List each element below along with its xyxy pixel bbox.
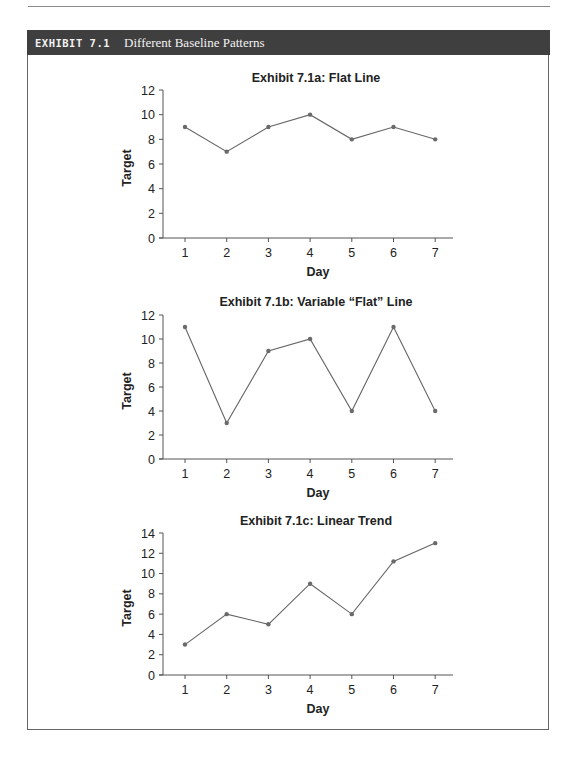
x-tick-label: 4	[307, 246, 314, 260]
chart-c-x-label: Day	[307, 702, 330, 716]
data-point-marker	[183, 125, 187, 129]
chart-a-x-label: Day	[307, 265, 330, 279]
y-tick-label: 2	[148, 207, 155, 221]
y-tick-label: 0	[148, 669, 155, 683]
y-tick-label: 6	[148, 608, 155, 622]
y-tick-label: 12	[141, 309, 155, 323]
data-point-marker	[266, 622, 270, 626]
chart-a-y-label: Target	[120, 149, 134, 187]
data-point-marker	[308, 582, 312, 586]
y-tick-label: 14	[141, 527, 155, 541]
chart-b-y-label: Target	[120, 372, 134, 410]
data-point-marker	[308, 112, 312, 116]
data-point-marker	[225, 421, 229, 425]
data-point-marker	[433, 541, 437, 545]
x-tick-label: 2	[223, 467, 230, 481]
x-tick-label: 5	[348, 467, 355, 481]
y-tick-label: 4	[148, 628, 155, 642]
data-point-marker	[350, 137, 354, 141]
data-point-marker	[391, 325, 395, 329]
y-tick-label: 12	[141, 547, 155, 561]
x-tick-label: 2	[223, 683, 230, 697]
x-tick-label: 7	[432, 683, 439, 697]
y-tick-label: 4	[148, 405, 155, 419]
x-tick-label: 7	[432, 246, 439, 260]
chart-a-title: Exhibit 7.1a: Flat Line	[252, 71, 381, 85]
x-tick-label: 5	[348, 683, 355, 697]
data-point-marker	[183, 642, 187, 646]
x-tick-label: 6	[390, 246, 397, 260]
chart-c-series-line	[185, 543, 435, 645]
chart-b-series-line	[185, 327, 435, 423]
data-point-marker	[433, 409, 437, 413]
y-tick-label: 10	[141, 567, 155, 581]
y-tick-label: 2	[148, 648, 155, 662]
x-tick-label: 3	[265, 683, 272, 697]
y-tick-label: 10	[141, 333, 155, 347]
x-tick-label: 6	[390, 683, 397, 697]
y-tick-label: 4	[148, 182, 155, 196]
x-tick-label: 1	[182, 467, 189, 481]
data-point-marker	[225, 149, 229, 153]
data-point-marker	[350, 409, 354, 413]
x-tick-label: 1	[182, 246, 189, 260]
chart-b-title: Exhibit 7.1b: Variable “Flat” Line	[219, 295, 412, 309]
data-point-marker	[266, 125, 270, 129]
chart-c-title: Exhibit 7.1c: Linear Trend	[240, 514, 392, 528]
charts-canvas: Exhibit 7.1a: Flat Line0246810121234567D…	[0, 0, 576, 767]
data-point-marker	[391, 125, 395, 129]
y-tick-label: 0	[148, 232, 155, 246]
x-tick-label: 7	[432, 467, 439, 481]
x-tick-label: 4	[307, 683, 314, 697]
y-tick-label: 8	[148, 133, 155, 147]
y-tick-label: 12	[141, 84, 155, 98]
y-tick-label: 8	[148, 587, 155, 601]
data-point-marker	[266, 349, 270, 353]
chart-b-x-label: Day	[307, 486, 330, 500]
data-point-marker	[308, 337, 312, 341]
chart-c-y-label: Target	[120, 589, 134, 627]
y-tick-label: 0	[148, 453, 155, 467]
data-point-marker	[225, 612, 229, 616]
y-tick-label: 8	[148, 357, 155, 371]
x-tick-label: 5	[348, 246, 355, 260]
y-tick-label: 2	[148, 429, 155, 443]
data-point-marker	[391, 559, 395, 563]
x-tick-label: 3	[265, 246, 272, 260]
data-point-marker	[433, 137, 437, 141]
x-tick-label: 6	[390, 467, 397, 481]
y-tick-label: 10	[141, 108, 155, 122]
y-tick-label: 6	[148, 158, 155, 172]
data-point-marker	[183, 325, 187, 329]
x-tick-label: 3	[265, 467, 272, 481]
x-tick-label: 1	[182, 683, 189, 697]
chart-a-series-line	[185, 115, 435, 152]
y-tick-label: 6	[148, 381, 155, 395]
x-tick-label: 4	[307, 467, 314, 481]
data-point-marker	[350, 612, 354, 616]
x-tick-label: 2	[223, 246, 230, 260]
